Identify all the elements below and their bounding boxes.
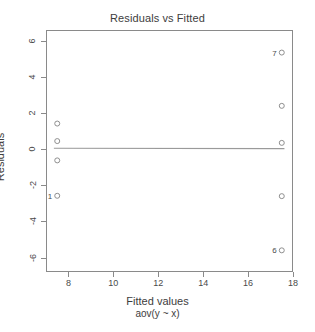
data-point	[55, 121, 60, 126]
y-tick-label: -2	[28, 181, 38, 189]
point-label-1: 1	[48, 191, 54, 200]
y-tick-label: -6	[28, 254, 38, 262]
x-axis-subtitle: aov(y ~ x)	[0, 308, 315, 319]
y-tick-label: 6	[27, 38, 37, 43]
x-tick-mark	[68, 272, 69, 277]
y-tick-mark	[41, 41, 46, 42]
data-point	[55, 193, 60, 198]
y-tick-mark	[41, 258, 46, 259]
x-tick-mark	[158, 272, 159, 277]
y-tick-label: -4	[28, 217, 38, 225]
y-tick-label: 0	[27, 147, 37, 152]
x-tick-label: 12	[153, 278, 163, 288]
y-tick-mark	[41, 221, 46, 222]
data-point	[279, 140, 284, 145]
x-tick-label: 10	[108, 278, 118, 288]
plot-data-area	[46, 30, 293, 272]
x-tick-label: 14	[198, 278, 208, 288]
y-tick-mark	[41, 113, 46, 114]
y-tick-label: 2	[27, 111, 37, 116]
x-tick-mark	[203, 272, 204, 277]
x-tick-mark	[293, 272, 294, 277]
y-tick-mark	[41, 149, 46, 150]
data-point	[279, 103, 284, 108]
x-tick-mark	[113, 272, 114, 277]
x-axis-title: Fitted values	[0, 295, 315, 307]
x-tick-label: 8	[66, 278, 71, 288]
data-point	[279, 50, 284, 55]
scatter-canvas	[46, 30, 293, 272]
x-tick-label: 18	[288, 278, 298, 288]
data-point	[279, 248, 284, 253]
y-tick-mark	[41, 77, 46, 78]
x-tick-mark	[248, 272, 249, 277]
point-label-7: 7	[272, 48, 278, 57]
chart-title: Residuals vs Fitted	[0, 12, 315, 24]
residual-plot-figure: Residuals vs Fitted 810121416186420-2-4-…	[0, 0, 315, 332]
x-tick-label: 16	[243, 278, 253, 288]
y-tick-mark	[41, 185, 46, 186]
y-axis-title: Residuals	[0, 97, 6, 217]
data-point	[279, 194, 284, 199]
data-point	[55, 158, 60, 163]
point-label-6: 6	[272, 246, 278, 255]
y-tick-label: 4	[27, 74, 37, 79]
data-point	[55, 139, 60, 144]
